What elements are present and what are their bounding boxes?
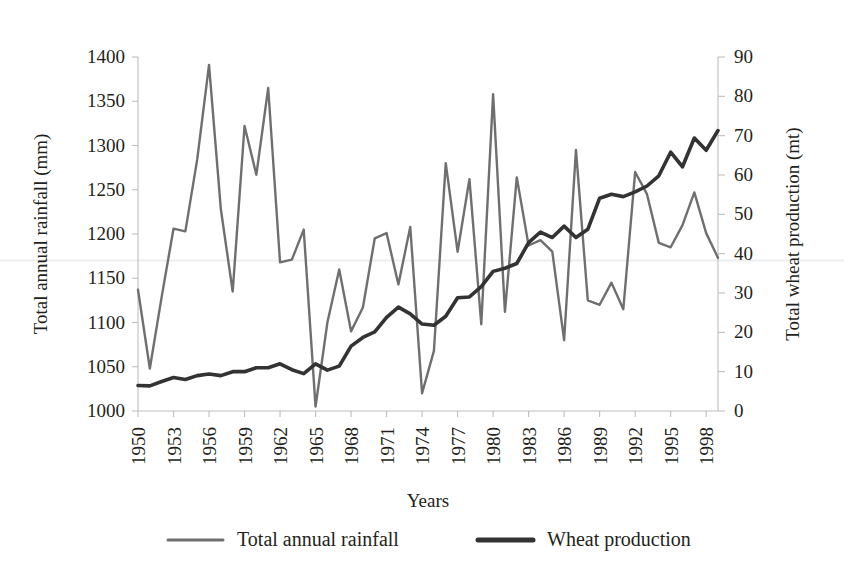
x-tick-label: 1998: [696, 427, 717, 465]
x-tick-label: 1962: [270, 427, 291, 465]
legend-label-2: Wheat production: [547, 528, 691, 551]
x-tick-label: 1965: [306, 427, 327, 465]
x-tick-label: 1989: [590, 427, 611, 465]
x-tick-label: 1983: [519, 427, 540, 465]
x-tick-label: 1980: [483, 427, 504, 465]
y-left-tick-label: 1150: [88, 267, 125, 288]
y-left-tick-label: 1400: [87, 46, 125, 67]
y-right-tick-label: 10: [734, 361, 753, 382]
x-axis-title: Years: [407, 490, 449, 511]
x-tick-label: 1986: [554, 427, 575, 465]
y-left-tick-label: 1100: [88, 312, 125, 333]
x-tick-label: 1953: [164, 427, 185, 465]
x-tick-label: 1956: [199, 427, 220, 465]
y-left-tick-label: 1350: [87, 90, 125, 111]
y-right-tick-label: 30: [734, 282, 753, 303]
y-right-tick-label: 0: [734, 400, 744, 421]
y-right-tick-label: 80: [734, 85, 753, 106]
y-right-tick-label: 50: [734, 203, 753, 224]
y-left-tick-label: 1300: [87, 135, 125, 156]
y-right-tick-label: 20: [734, 321, 753, 342]
y-right-tick-label: 70: [734, 125, 753, 146]
right-axis-title: Total wheat production (mt): [782, 127, 804, 340]
x-tick-label: 1950: [128, 427, 149, 465]
x-tick-label: 1995: [661, 427, 682, 465]
x-tick-label: 1974: [412, 427, 433, 466]
y-right-tick-label: 90: [734, 46, 753, 67]
y-left-tick-label: 1000: [87, 400, 125, 421]
x-tick-label: 1971: [377, 427, 398, 465]
y-left-tick-label: 1250: [87, 179, 125, 200]
y-right-tick-label: 40: [734, 243, 753, 264]
x-tick-label: 1959: [235, 427, 256, 465]
y-left-tick-label: 1050: [87, 356, 125, 377]
left-axis-title: Total annual rainfall (mm): [30, 134, 52, 335]
y-right-tick-label: 60: [734, 164, 753, 185]
x-tick-label: 1992: [625, 427, 646, 465]
x-tick-label: 1977: [448, 427, 469, 465]
y-left-tick-label: 1200: [87, 223, 125, 244]
chart-figure: 100010501100115012001250130013501400 010…: [0, 0, 844, 585]
x-tick-label: 1968: [341, 427, 362, 465]
line-chart: 100010501100115012001250130013501400 010…: [0, 0, 844, 585]
legend-label-1: Total annual rainfall: [237, 528, 399, 550]
